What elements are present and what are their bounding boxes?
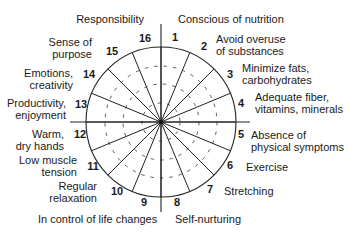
segment-label-9: In control of life changes bbox=[38, 213, 158, 225]
segment-number-16: 16 bbox=[139, 32, 151, 44]
segment-number-9: 9 bbox=[141, 196, 147, 208]
segment-label-10-line2: relaxation bbox=[49, 192, 97, 204]
segment-label-4-line1: Adequate fiber, bbox=[255, 91, 329, 103]
segment-label-5-line2: physical symptoms bbox=[251, 141, 344, 153]
segment-label-1: Conscious of nutrition bbox=[178, 13, 284, 25]
segment-label-2-line2: of substances bbox=[216, 45, 284, 57]
segment-number-1: 1 bbox=[172, 31, 178, 43]
segment-label-12-line2: dry hands bbox=[16, 140, 65, 152]
segment-number-14: 14 bbox=[83, 68, 96, 80]
segment-number-15: 15 bbox=[106, 45, 118, 57]
segment-label-14-line2: creativity bbox=[30, 79, 74, 91]
segment-number-10: 10 bbox=[111, 185, 123, 197]
segment-label-7: Stretching bbox=[224, 185, 274, 197]
segment-number-12: 12 bbox=[74, 128, 86, 140]
segment-label-11-line2: tension bbox=[42, 166, 77, 178]
spoke bbox=[161, 122, 214, 175]
segment-number-5: 5 bbox=[238, 128, 244, 140]
segment-number-7: 7 bbox=[207, 183, 213, 195]
segment-label-11-line1: Low muscle bbox=[19, 154, 77, 166]
segment-label-4-line2: vitamins, minerals bbox=[255, 103, 344, 115]
segment-number-3: 3 bbox=[227, 68, 233, 80]
wellness-wheel-diagram: 1 2 3 4 5 6 7 8 9 10 11 12 13 14 15 16 C… bbox=[0, 0, 348, 236]
segment-label-15-line1: Sense of bbox=[49, 36, 93, 48]
segment-label-5-line1: Absence of bbox=[251, 129, 307, 141]
segment-label-13-line1: Productivity, bbox=[7, 97, 66, 109]
segment-label-3-line1: Minimize fats, bbox=[242, 62, 309, 74]
segment-label-14-line1: Emotions, bbox=[24, 67, 73, 79]
segment-label-3-line2: carbohydrates bbox=[242, 74, 312, 86]
segment-label-12-line1: Warm, bbox=[32, 128, 64, 140]
segment-label-13-line2: enjoyment bbox=[15, 109, 66, 121]
segment-number-13: 13 bbox=[75, 98, 87, 110]
segment-labels: Conscious of nutrition Avoid overuse of … bbox=[7, 13, 345, 225]
spoke bbox=[108, 122, 161, 175]
segment-label-2-line1: Avoid overuse bbox=[216, 33, 286, 45]
segment-number-11: 11 bbox=[87, 160, 99, 172]
center-dot bbox=[159, 120, 163, 124]
segment-label-16: Responsibility bbox=[76, 13, 144, 25]
segment-label-10-line1: Regular bbox=[58, 180, 97, 192]
segment-label-6: Exercise bbox=[246, 161, 288, 173]
segment-numbers: 1 2 3 4 5 6 7 8 9 10 11 12 13 14 15 16 bbox=[74, 31, 245, 208]
segment-number-2: 2 bbox=[201, 40, 207, 52]
spoke bbox=[161, 69, 214, 122]
spoke bbox=[108, 69, 161, 122]
segment-label-15-line2: purpose bbox=[52, 48, 92, 60]
segment-number-8: 8 bbox=[174, 196, 180, 208]
segment-number-6: 6 bbox=[227, 159, 233, 171]
segment-number-4: 4 bbox=[238, 97, 245, 109]
segment-label-8: Self-nurturing bbox=[175, 213, 241, 225]
